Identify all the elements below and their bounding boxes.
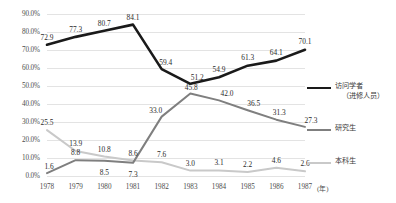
y-axis-tick-label: 10.0%: [0, 154, 40, 162]
data-label: 84.1: [127, 13, 140, 22]
series-line-0: [47, 25, 305, 84]
data-label: 13.9: [69, 139, 82, 148]
data-label: 33.0: [149, 106, 162, 115]
data-label: 77.3: [69, 25, 82, 34]
data-label: 36.5: [247, 99, 260, 108]
y-axis-tick-label: 80.0%: [0, 28, 40, 36]
y-axis-tick-label: 30.0%: [0, 118, 40, 126]
legend-item-1[interactable]: 研究生: [307, 124, 356, 134]
data-label: 8.5: [100, 168, 109, 177]
chart-plot-area: [0, 0, 396, 203]
data-label: 51.2: [191, 73, 204, 82]
data-label: 25.5: [41, 118, 54, 127]
data-label: 80.7: [98, 19, 111, 28]
data-label: 59.4: [159, 58, 172, 67]
legend-item-2[interactable]: 本科生: [307, 157, 356, 167]
data-label: 72.9: [41, 33, 54, 42]
data-label: 64.1: [270, 48, 283, 57]
data-label: 1.6: [44, 162, 53, 171]
data-label: 61.3: [241, 53, 254, 62]
data-label: 3.1: [214, 158, 223, 167]
data-label: 8.8: [71, 148, 80, 157]
data-label: 3.0: [186, 159, 195, 168]
data-label: 7.3: [128, 170, 137, 179]
data-label: 31.3: [273, 108, 286, 117]
legend-label: 访问学者: [335, 82, 363, 90]
data-label: 2.2: [243, 160, 252, 169]
data-label: 45.8: [185, 83, 198, 92]
legend-label: 本科生: [335, 157, 356, 165]
legend-swatch-icon: [307, 87, 331, 89]
y-axis-tick-label: 40.0%: [0, 100, 40, 108]
data-label: 42.0: [221, 89, 234, 98]
y-axis-tick-label: 0.0%: [0, 172, 40, 180]
data-label: 4.6: [272, 156, 281, 165]
series-line-1: [47, 94, 305, 174]
data-label: 7.6: [157, 150, 166, 159]
data-label: 70.1: [299, 37, 312, 46]
data-label: 10.8: [98, 145, 111, 154]
y-axis-tick-label: 90.0%: [0, 10, 40, 18]
x-axis-unit-label: (年): [317, 183, 329, 193]
legend-label: 研究生: [335, 124, 356, 132]
series-line-2: [47, 130, 305, 172]
data-label: 8.6: [128, 149, 137, 158]
legend-swatch-icon: [307, 162, 331, 164]
data-label: 54.9: [213, 65, 226, 74]
legend-swatch-icon: [307, 129, 331, 131]
legend-item-0[interactable]: 访问学者（进修人员）: [307, 82, 384, 101]
y-axis-tick-label: 20.0%: [0, 136, 40, 144]
y-axis-tick-label: 70.0%: [0, 46, 40, 54]
y-axis-tick-label: 50.0%: [0, 82, 40, 90]
y-axis-tick-label: 60.0%: [0, 64, 40, 72]
line-chart: 0.0%10.0%20.0%30.0%40.0%50.0%60.0%70.0%8…: [0, 0, 396, 203]
legend-sublabel: （进修人员）: [335, 92, 384, 102]
